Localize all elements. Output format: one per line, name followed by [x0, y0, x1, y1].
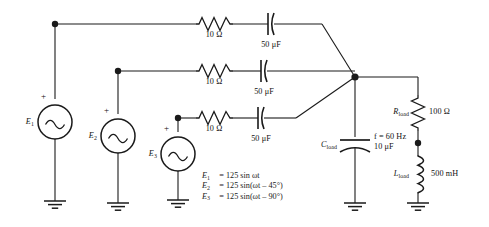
equation-2-rhs: 125 sin(ωt – 45°): [226, 181, 283, 190]
polarity-plus-E1: +: [41, 92, 46, 101]
resistor-value-branch-3: 10 Ω: [206, 125, 223, 133]
inductor-load-label: Lload: [394, 170, 409, 178]
inductor-load-label-text: L: [394, 169, 399, 178]
capacitor-branch-1-plate-curved: [272, 13, 274, 35]
resistor-value-branch-1: 10 Ω: [206, 31, 223, 39]
polarity-plus-E3: +: [164, 124, 169, 133]
resistor-branch-2: [196, 65, 233, 78]
load-capacitor-branch: [340, 77, 370, 210]
wire-branch-3-diagonal: [296, 77, 355, 118]
capacitor-branch-3-plate-curved: [262, 107, 264, 129]
frequency-label: f = 60 Hz: [374, 133, 406, 141]
capacitor-value-branch-3: 50 μF: [251, 135, 271, 143]
equation-row-3: E3=125 sin(ωt – 90°): [202, 192, 283, 202]
resistor-load: [412, 95, 425, 131]
equation-1-sub: 1: [207, 175, 210, 181]
source-label-E3: E3: [149, 150, 157, 158]
resistor-load-label-sub: load: [398, 111, 409, 117]
equation-3-lhs: E3: [202, 192, 217, 202]
equation-2-sub: 2: [207, 185, 210, 191]
source-E3: [161, 137, 195, 171]
ground-icon-1: [44, 201, 66, 208]
equation-2-lhs: E2: [202, 181, 217, 191]
ground-icon-4: [344, 203, 366, 210]
ground-icon-2: [107, 203, 129, 210]
resistor-value-branch-2: 10 Ω: [206, 78, 223, 86]
resistor-load-value: 100 Ω: [429, 108, 450, 116]
capacitor-load-label-sub: load: [326, 144, 337, 150]
capacitor-value-branch-2: 50 μF: [254, 88, 274, 96]
ground-icon-5: [407, 203, 429, 210]
source-E1: [38, 105, 72, 139]
resistor-load-label: Rload: [393, 108, 409, 116]
source-label-E2-sub: 2: [94, 135, 97, 141]
capacitor-load-label-text: C: [321, 140, 327, 149]
equation-3-rhs: 125 sin(ωt – 90°): [226, 192, 283, 201]
source-label-E3-sub: 3: [154, 153, 157, 159]
source-label-E2: E2: [89, 132, 97, 140]
polarity-plus-E2: +: [104, 106, 109, 115]
source-label-E1: E1: [26, 118, 34, 126]
equation-3-equals: =: [217, 192, 226, 202]
ground-icon-3: [167, 200, 189, 207]
sine-wave-icon-E2: [109, 134, 128, 142]
source-E2: [101, 119, 135, 153]
capacitor-value-branch-1: 50 μF: [261, 41, 281, 49]
sine-wave-icon-E1: [46, 120, 65, 128]
equation-1-rhs: 125 sin ωt: [226, 171, 260, 180]
source-label-E1-sub: 1: [31, 121, 34, 127]
equation-1-lhs: E1: [202, 171, 217, 181]
capacitor-load-value: 10 μF: [374, 143, 394, 151]
equation-row-2: E2=125 sin(ωt – 45°): [202, 181, 283, 191]
inductor-load: [418, 156, 424, 193]
resistor-branch-3: [196, 112, 233, 125]
wire-branch-1-diagonal: [322, 24, 355, 77]
capacitor-load-label: Cload: [321, 141, 337, 149]
resistor-branch-1: [196, 18, 233, 31]
frequency-value: = 60 Hz: [377, 132, 406, 141]
equation-3-sub: 3: [207, 195, 210, 201]
inductor-load-value: 500 mH: [431, 170, 458, 178]
capacitor-branch-2-plate-curved: [265, 60, 267, 82]
equation-1-equals: =: [217, 171, 226, 181]
equations-block: E1=125 sin ωt E2=125 sin(ωt – 45°) E3=12…: [202, 171, 283, 202]
equation-2-equals: =: [217, 181, 226, 191]
equation-row-1: E1=125 sin ωt: [202, 171, 283, 181]
sine-wave-icon-E3: [169, 152, 188, 160]
inductor-load-label-sub: load: [398, 173, 409, 179]
